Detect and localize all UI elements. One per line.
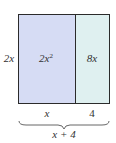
bottom-label-x: x [45, 108, 50, 119]
region-label-exponent: 2 [49, 52, 53, 60]
region-label-8x: 8x [87, 53, 97, 64]
region-label-2x-squared: 2x2 [39, 53, 53, 64]
total-label-x-plus-4: x + 4 [52, 129, 75, 140]
bottom-label-4: 4 [89, 108, 95, 119]
region-label-base: 2x [39, 52, 49, 64]
side-label-2x: 2x [4, 53, 14, 64]
